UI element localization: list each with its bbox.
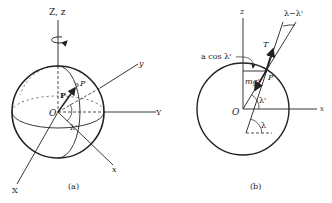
label-X: X (12, 186, 18, 195)
figure-b: z x O P a cos λ' mg' T λ−λ' λ' λ (b) (197, 7, 324, 191)
label-origin: O (49, 108, 57, 118)
label-lambda-prime: λ' (259, 96, 266, 105)
label-lambda-prime: λ' (70, 123, 77, 132)
tension-arrow (266, 49, 273, 71)
label-origin: O (232, 107, 240, 117)
label-acos: a cos λ' (201, 52, 232, 61)
label-y: y (138, 59, 144, 68)
caption-b: (b) (250, 182, 261, 191)
label-Y: Y (155, 108, 162, 117)
label-point-p: P (79, 79, 86, 88)
label-z: z (239, 7, 245, 16)
caption-a: (a) (68, 182, 79, 191)
equator-front (12, 112, 104, 128)
label-lambda-diff: λ−λ' (284, 9, 303, 18)
figure-canvas: Z, z y Y x X O P P λ' (a) (0, 0, 332, 203)
figure-a: Z, z y Y x X O P P λ' (a) (12, 7, 162, 195)
label-x: x (112, 165, 117, 174)
label-x: x (320, 105, 324, 113)
label-Z-z: Z, z (49, 7, 66, 17)
label-mg: mg' (245, 77, 260, 86)
rotation-arrow-icon (52, 37, 67, 43)
point-p-marker (76, 84, 79, 87)
y-axis (100, 64, 138, 88)
label-T: T (263, 40, 269, 49)
label-lambda: λ (261, 121, 266, 130)
label-vector-p: P (60, 90, 66, 100)
label-point-p: P (267, 73, 274, 82)
point-p-marker (265, 70, 268, 73)
